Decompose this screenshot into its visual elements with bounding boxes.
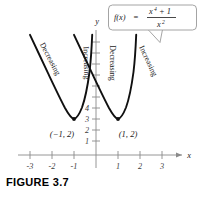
x-axis-label: x [186,151,191,160]
annotation-left-increasing: Increasing [81,46,91,79]
x-tick-label-neg3: -3 [27,162,34,171]
vertex-dot-left [72,117,76,121]
formula-numerator-exponent: 4 [154,6,157,12]
annotation-right-decreasing: Decreasing [108,45,117,81]
formula-function-name: f(x) [114,13,126,22]
x-axis [18,152,182,157]
y-axis-label: y [94,17,99,26]
formula-denominator-exponent: 2 [162,19,165,25]
point-label-left: (−1, 2) [50,129,75,139]
callout-tail [148,30,163,43]
x-tick-label-3: 3 [159,162,164,171]
formula-denominator-base: x [156,20,161,29]
y-tick-label-4: 4 [85,104,89,113]
figure-container: -3 -2 -1 1 2 3 1 2 3 4 x y (−1, 2) (1, 2… [0,0,207,197]
figure-caption: FIGURE 3.7 [6,176,69,188]
x-tick-label-neg2: -2 [49,162,56,171]
x-tick-label-neg1: -1 [71,162,78,171]
formula-equals: = [133,13,139,22]
y-tick-label-1: 1 [85,137,89,146]
formula-numerator-tail: + 1 [159,7,171,16]
x-tick-label-1: 1 [116,162,120,171]
x-tick-label-2: 2 [138,162,142,171]
x-axis-arrow [176,152,182,157]
function-plot: -3 -2 -1 1 2 3 1 2 3 4 x y (−1, 2) (1, 2… [0,0,207,197]
vertex-dot-right [116,117,120,121]
y-tick-label-2: 2 [85,126,89,135]
formula-numerator-base: x [148,7,153,16]
annotation-right-increasing: Increasing [137,44,159,78]
point-label-right: (1, 2) [119,129,138,139]
y-tick-label-3: 3 [84,115,89,124]
